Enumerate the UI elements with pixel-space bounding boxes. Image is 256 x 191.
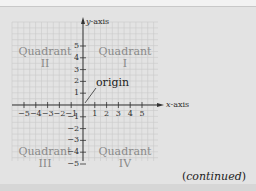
continued-note: (continued) [182,170,246,183]
y-tick-label: 4 [65,53,79,62]
y-tick-label: 5 [65,41,79,50]
x-tick-label: 5 [135,109,149,118]
y-tick-label: 1 [65,88,79,97]
y-tick-label: 3 [65,65,79,74]
quadrant-iv-label: QuadrantIV [90,146,160,170]
y-axis-arrow-icon [81,17,85,24]
y-tick-label: 2 [65,76,79,85]
y-axis-label: y-axis [86,17,109,26]
bottom-border [0,184,256,191]
y-tick-label: −2 [65,124,79,133]
x-axis-label: x-axis [166,100,189,109]
y-tick-label: −3 [65,135,79,144]
quadrant-i-label: QuadrantI [90,46,160,70]
origin-label: origin [96,76,129,89]
y-tick-label: −1 [65,112,79,121]
x-axis-arrow-icon [157,103,164,107]
y-tick-label: −4 [65,147,79,156]
y-tick-label: −5 [65,159,79,168]
